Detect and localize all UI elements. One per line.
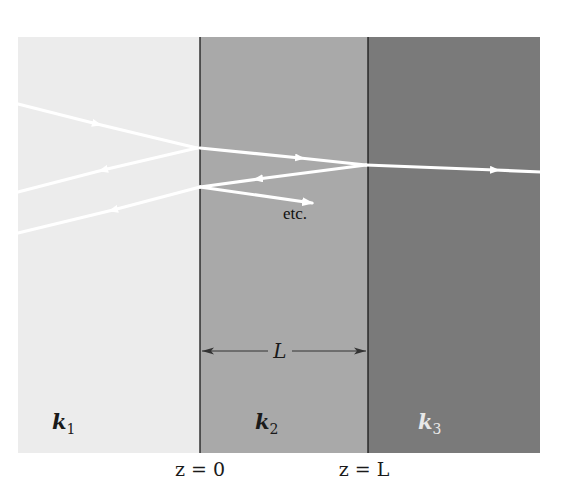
medium-2-region — [200, 37, 368, 453]
etc-annotation: etc. — [283, 204, 307, 223]
dimension-label: L — [272, 339, 286, 363]
boundary-z0-label: z = 0 — [175, 458, 225, 480]
medium-1-region — [18, 37, 200, 453]
medium-3-region — [368, 37, 540, 453]
boundary-zL-label: z = L — [339, 458, 390, 480]
diagram-stage: etc. L k1 k2 k3 z = 0 z = L — [0, 0, 563, 502]
